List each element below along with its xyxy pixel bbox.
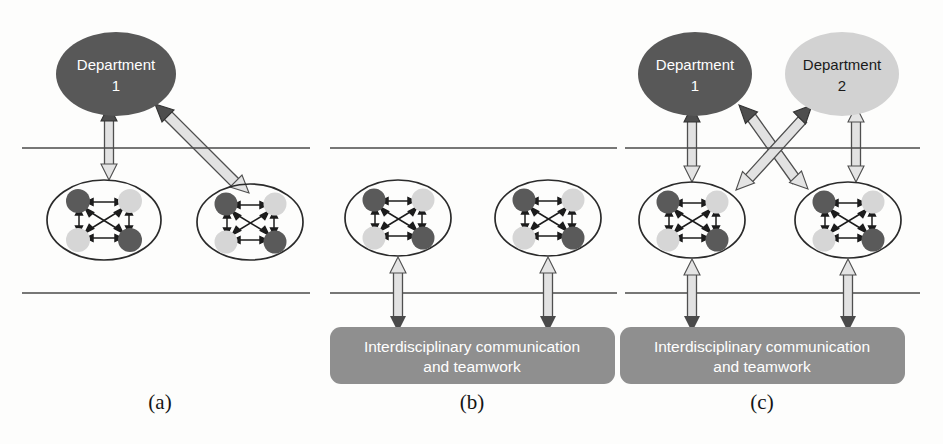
b-cluster-left[interactable] <box>345 180 451 256</box>
c-panel-caption: (c) <box>750 390 773 414</box>
b-teamwork-box-line1: Interdisciplinary communication <box>364 338 580 355</box>
c-department-2-line2: 2 <box>838 77 846 94</box>
panel-b: Interdisciplinary communication and team… <box>330 148 617 414</box>
c-connector-left-cluster-to-box <box>684 259 700 332</box>
panel-a: Department 1 <box>22 32 310 414</box>
c-teamwork-box-line1: Interdisciplinary communication <box>654 338 870 355</box>
c-teamwork-box-line2: and teamwork <box>713 358 811 375</box>
a-panel-caption: (a) <box>148 390 171 414</box>
a-department-1-line1: Department <box>77 56 156 73</box>
c-cluster-right[interactable] <box>795 182 901 258</box>
b-teamwork-box[interactable]: Interdisciplinary communication and team… <box>330 327 615 384</box>
b-panel-caption: (b) <box>460 390 485 414</box>
a-connector-dept1-to-left-cluster <box>101 105 117 180</box>
b-teamwork-box-line2: and teamwork <box>423 358 521 375</box>
a-cluster-right[interactable] <box>197 184 303 260</box>
a-cluster-left[interactable] <box>47 180 161 260</box>
c-department-2[interactable]: Department 2 <box>785 32 899 116</box>
b-connector-right-cluster-to-box <box>540 257 556 332</box>
panel-c: Department 1 Department 2 <box>620 32 920 414</box>
c-connector-right-cluster-to-box <box>840 259 856 332</box>
a-department-1-line2: 1 <box>112 77 120 94</box>
b-connector-left-cluster-to-box <box>390 257 406 332</box>
b-cluster-right[interactable] <box>495 180 601 256</box>
c-department-1-line2: 1 <box>691 77 699 94</box>
figure-canvas: Department 1 <box>0 0 943 444</box>
c-cluster-left[interactable] <box>639 182 745 258</box>
a-department-1[interactable]: Department 1 <box>56 32 176 116</box>
c-teamwork-box[interactable]: Interdisciplinary communication and team… <box>620 327 905 384</box>
c-department-1-line1: Department <box>656 56 735 73</box>
c-department-1[interactable]: Department 1 <box>638 32 752 116</box>
c-connector-dept1-to-left-cluster <box>684 106 700 182</box>
c-connector-dept2-to-right-cluster <box>848 106 864 182</box>
c-department-2-line1: Department <box>803 56 882 73</box>
